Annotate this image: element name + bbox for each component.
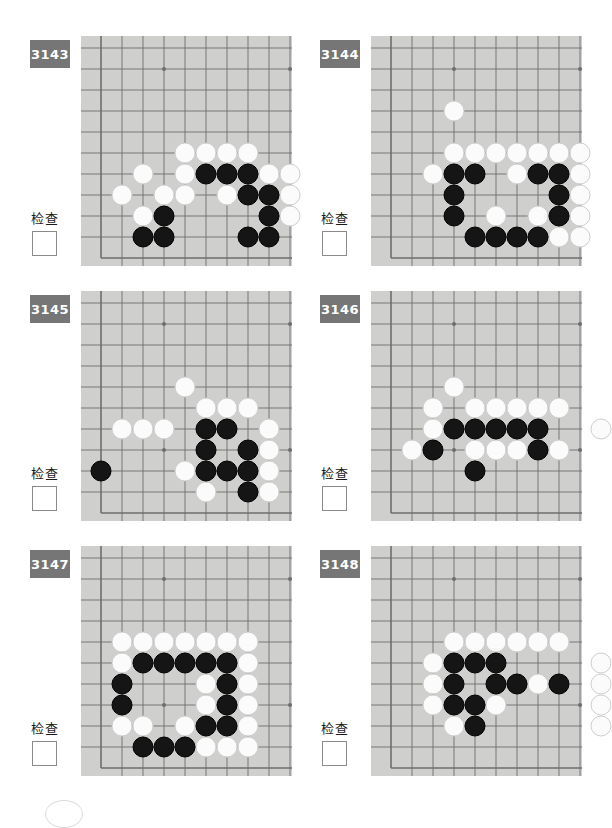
check-checkbox[interactable] bbox=[32, 486, 57, 511]
problem-gutter: 3145检查 bbox=[24, 291, 86, 541]
white-stone bbox=[217, 185, 238, 206]
white-stone bbox=[507, 440, 528, 461]
black-stone bbox=[91, 461, 112, 482]
problem-panel: 3146检查 bbox=[314, 291, 594, 541]
white-stone bbox=[486, 632, 507, 653]
black-stone bbox=[175, 737, 196, 758]
white-stone bbox=[175, 143, 196, 164]
check-checkbox[interactable] bbox=[322, 231, 347, 256]
white-stone bbox=[175, 164, 196, 185]
white-stone bbox=[549, 143, 570, 164]
white-stone bbox=[549, 632, 570, 653]
white-stone bbox=[175, 185, 196, 206]
white-stone bbox=[280, 185, 301, 206]
white-stone bbox=[528, 206, 549, 227]
white-stone bbox=[423, 653, 444, 674]
black-stone bbox=[196, 461, 217, 482]
problem-gutter: 3144检查 bbox=[314, 36, 376, 286]
white-stone bbox=[196, 398, 217, 419]
black-stone bbox=[112, 695, 133, 716]
white-stone bbox=[133, 419, 154, 440]
white-stone bbox=[507, 398, 528, 419]
white-stone bbox=[486, 398, 507, 419]
white-stone bbox=[591, 653, 612, 674]
check-checkbox[interactable] bbox=[32, 741, 57, 766]
black-stone bbox=[196, 440, 217, 461]
white-stone bbox=[444, 716, 465, 737]
check-checkbox[interactable] bbox=[322, 486, 347, 511]
problem-gutter: 3148检查 bbox=[314, 546, 376, 796]
black-stone bbox=[217, 653, 238, 674]
white-stone bbox=[570, 185, 591, 206]
go-board-grid bbox=[81, 546, 292, 776]
black-stone bbox=[444, 419, 465, 440]
check-label: 检查 bbox=[321, 463, 349, 482]
white-stone bbox=[175, 377, 196, 398]
black-stone bbox=[444, 653, 465, 674]
black-stone bbox=[444, 695, 465, 716]
problem-gutter: 3143检查 bbox=[24, 36, 86, 286]
white-stone bbox=[238, 632, 259, 653]
white-stone bbox=[133, 716, 154, 737]
black-stone bbox=[196, 716, 217, 737]
white-stone bbox=[570, 143, 591, 164]
go-board[interactable] bbox=[81, 36, 292, 266]
white-stone bbox=[196, 737, 217, 758]
black-stone bbox=[528, 164, 549, 185]
white-stone bbox=[528, 398, 549, 419]
black-stone bbox=[507, 227, 528, 248]
black-stone bbox=[154, 653, 175, 674]
white-stone bbox=[591, 716, 612, 737]
white-stone bbox=[112, 716, 133, 737]
black-stone bbox=[465, 164, 486, 185]
white-stone bbox=[259, 482, 280, 503]
go-board[interactable] bbox=[81, 546, 292, 776]
black-stone bbox=[238, 227, 259, 248]
black-stone bbox=[528, 440, 549, 461]
problem-panel: 3148检查 bbox=[314, 546, 594, 796]
white-stone bbox=[423, 695, 444, 716]
go-board[interactable] bbox=[371, 291, 582, 521]
black-stone bbox=[465, 227, 486, 248]
white-stone bbox=[507, 164, 528, 185]
check-label: 检查 bbox=[31, 208, 59, 227]
white-stone bbox=[238, 695, 259, 716]
white-stone bbox=[549, 398, 570, 419]
white-stone bbox=[196, 674, 217, 695]
partial-circle-mark bbox=[45, 800, 83, 828]
black-stone bbox=[486, 227, 507, 248]
black-stone bbox=[217, 164, 238, 185]
black-stone bbox=[133, 737, 154, 758]
go-board-grid bbox=[371, 36, 582, 266]
white-stone bbox=[549, 227, 570, 248]
white-stone bbox=[528, 143, 549, 164]
go-board[interactable] bbox=[81, 291, 292, 521]
problem-id-badge: 3148 bbox=[320, 550, 360, 578]
white-stone bbox=[196, 695, 217, 716]
black-stone bbox=[486, 653, 507, 674]
white-stone bbox=[154, 419, 175, 440]
check-checkbox[interactable] bbox=[32, 231, 57, 256]
go-board[interactable] bbox=[371, 36, 582, 266]
black-stone bbox=[196, 419, 217, 440]
check-checkbox[interactable] bbox=[322, 741, 347, 766]
black-stone bbox=[528, 419, 549, 440]
white-stone bbox=[444, 632, 465, 653]
black-stone bbox=[238, 482, 259, 503]
white-stone bbox=[133, 632, 154, 653]
black-stone bbox=[528, 227, 549, 248]
black-stone bbox=[133, 227, 154, 248]
white-stone bbox=[591, 419, 612, 440]
black-stone bbox=[465, 716, 486, 737]
white-stone bbox=[175, 716, 196, 737]
white-stone bbox=[423, 164, 444, 185]
black-stone bbox=[465, 695, 486, 716]
black-stone bbox=[444, 206, 465, 227]
go-board[interactable] bbox=[371, 546, 582, 776]
black-stone bbox=[549, 185, 570, 206]
white-stone bbox=[154, 185, 175, 206]
white-stone bbox=[444, 101, 465, 122]
white-stone bbox=[528, 674, 549, 695]
black-stone bbox=[133, 653, 154, 674]
